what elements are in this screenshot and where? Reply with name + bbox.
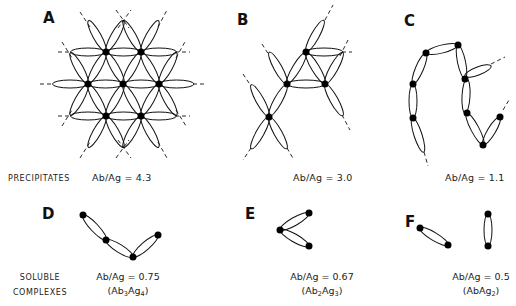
panel-label-b: B (237, 11, 248, 29)
panel-label-e: E (245, 205, 255, 223)
formula-e: (Ab2Ag3) (287, 284, 357, 301)
ratio-block-f: Ab/Ag = 0.5 (AbAg2) (446, 270, 516, 301)
complex-F (417, 211, 493, 250)
ratio-a: Ab/Ag = 4.3 (92, 172, 152, 183)
ratio-c: Ab/Ag = 1.1 (445, 172, 505, 183)
ratio-b: Ab/Ag = 3.0 (293, 172, 353, 183)
ratio-block-d: Ab/Ag = 0.75 (Ab3Ag4) (93, 270, 163, 301)
row-label-soluble: SOLUBLE (10, 270, 70, 285)
row-label-soluble-complexes: SOLUBLE COMPLEXES (10, 270, 70, 300)
complex-E (277, 210, 313, 250)
lattice-B (243, 5, 352, 160)
formula-d: (Ab3Ag4) (93, 284, 163, 301)
ratio-e: Ab/Ag = 0.67 (287, 270, 357, 284)
row-label-precipitates: PRECIPITATES (8, 171, 70, 186)
antibody-antigen-lattice-diagram: .e{fill:none;stroke:#111;stroke-width:1;… (0, 0, 516, 306)
panel-label-c: C (404, 12, 415, 30)
chain-C (409, 41, 509, 166)
lattice-A (40, 10, 205, 158)
ratio-block-e: Ab/Ag = 0.67 (Ab2Ag3) (287, 270, 357, 301)
row-label-complexes: COMPLEXES (10, 285, 70, 300)
panel-label-a: A (43, 9, 55, 27)
panel-label-d: D (42, 205, 54, 223)
formula-f: (AbAg2) (446, 284, 516, 301)
complex-D (80, 212, 162, 261)
ratio-d: Ab/Ag = 0.75 (93, 270, 163, 284)
panel-label-f: F (405, 213, 415, 231)
ratio-f: Ab/Ag = 0.5 (446, 270, 516, 284)
